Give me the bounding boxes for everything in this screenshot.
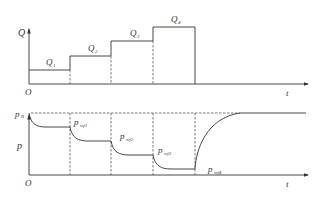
q4-sub: 4 [178, 20, 181, 25]
rate-y-label: Q [18, 27, 26, 38]
pwf3-sub: wf3 [164, 151, 172, 156]
rate-x-label: t [286, 88, 289, 98]
pressure-origin-label: O [25, 178, 32, 188]
rate-step-line [29, 27, 195, 84]
q3-sub: 3 [137, 34, 140, 39]
pressure-y-label: p [16, 140, 22, 151]
pressure-x-label: t [286, 179, 289, 189]
rate-chart: Q O t Q 1 Q 2 Q 3 Q 4 [18, 14, 308, 98]
q1-sub: 1 [53, 63, 56, 68]
pwf4-label: p [207, 164, 213, 174]
pwf2-sub: wf2 [126, 137, 134, 142]
pwf2-label: p [119, 131, 125, 141]
pwf1-sub: wf1 [80, 123, 87, 128]
q3-label: Q [130, 28, 137, 38]
pwf4-sub: wf4 [214, 170, 222, 175]
q2-label: Q [88, 43, 95, 53]
q1-label: Q [46, 57, 53, 67]
initial-pressure-label: p [14, 109, 20, 119]
q4-label: Q [171, 14, 178, 24]
pressure-curve [29, 113, 306, 169]
pressure-chart: p R p O t p wf1 p wf2 p wf3 p wf4 [14, 109, 308, 189]
rate-pressure-diagram: Q O t Q 1 Q 2 Q 3 Q 4 p R p O t p wf1 p … [0, 0, 321, 205]
q2-sub: 2 [95, 49, 98, 54]
rate-origin-label: O [25, 87, 32, 97]
initial-pressure-sub: R [20, 114, 24, 119]
pwf1-label: p [73, 117, 79, 127]
pwf3-label: p [157, 145, 163, 155]
